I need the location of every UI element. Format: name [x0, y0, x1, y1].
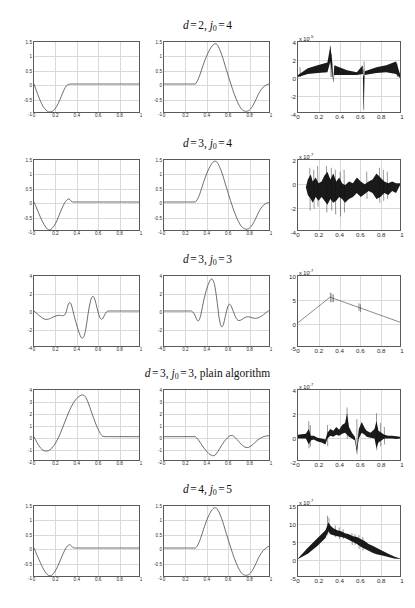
- ytick: 1.5: [26, 40, 32, 45]
- ytick: 4: [159, 274, 162, 279]
- ytick: 1: [159, 424, 162, 429]
- row-3-panels: 4 2 0 -2 -4 0 0.2 0.4 0.6 0.8 1: [0, 275, 415, 361]
- wavelet-function-curve: [164, 390, 269, 460]
- xtick: 0.6: [225, 347, 231, 352]
- axes-r4c3: x 10-7 4 2 0 -2 0 0.2 0.4 0.6 0.8 1: [297, 389, 401, 461]
- xtick: 0.2: [52, 461, 58, 466]
- ytick: 1: [159, 54, 162, 59]
- panel-r1c1: 1.5 1 0.5 0 -0.5 -1 0 0.2 0.4 0.6 0.8 1: [33, 41, 140, 113]
- axes-r5c2: 1.5 1 0.5 0 -0.5 -1 0 0.2 0.4 0.6 0.8 1: [163, 505, 270, 577]
- xtick: 0.6: [356, 113, 365, 120]
- panel-r5c1: 1.5 1 0.5 0 -0.5 -1 0 0.2 0.4 0.6 0.8 1: [33, 505, 140, 577]
- ytick: 1: [159, 518, 162, 523]
- axes-r1c3: x 10-5 4 2 0 -2 -4 0 0.2 0.4 0.6 0.8 1: [297, 41, 401, 113]
- ytick: 0: [293, 321, 296, 328]
- xtick: 1: [270, 347, 273, 352]
- panel-r4c3: x 10-7 4 2 0 -2 0 0.2 0.4 0.6 0.8 1: [297, 389, 401, 461]
- xtick: 0.4: [204, 231, 210, 236]
- xtick: 1: [140, 461, 143, 466]
- ytick: -1: [28, 448, 32, 453]
- xtick: 0.4: [335, 347, 344, 354]
- ytick: 1.5: [26, 158, 32, 163]
- xtick: 0.8: [246, 113, 252, 118]
- xtick: 1: [140, 113, 143, 118]
- figure-row-1: d=2, j0=4 1.5 1 0.5 0 -0.5 -1 0 0.2 0.4: [0, 18, 415, 127]
- xtick: 0: [296, 461, 299, 468]
- xtick: 0.6: [95, 113, 101, 118]
- xtick: 0.8: [377, 577, 386, 584]
- xtick: 0.8: [116, 231, 122, 236]
- xtick: 0.2: [182, 461, 188, 466]
- wavelet-function-curve: [164, 42, 269, 112]
- ytick: 0: [293, 557, 296, 564]
- error-curve: [298, 42, 400, 112]
- ytick: 2: [159, 292, 162, 297]
- xtick: 0: [163, 461, 166, 466]
- xtick: 0.2: [182, 231, 188, 236]
- xtick: 0.2: [182, 113, 188, 118]
- ytick: 0: [159, 201, 162, 206]
- xtick: 0.2: [52, 231, 58, 236]
- ytick: 2: [293, 57, 296, 64]
- ytick: -1: [28, 230, 32, 235]
- axes-r1c2: 1.5 1 0.5 0 -0.5 -1 0 0.2 0.4 0.6 0.8 1: [163, 41, 270, 113]
- xtick: 0: [33, 231, 36, 236]
- ytick: 4: [29, 388, 32, 393]
- xtick: 1: [400, 347, 403, 354]
- axes-r2c1: 1.5 1 0.5 0 -0.5 -1 0 0.2 0.4 0.6 0.8 1: [33, 159, 140, 231]
- panel-r4c2: 4 3 2 1 0 -1 -2 0 0.2 0.4 0.6 0.8 1: [163, 389, 270, 461]
- panel-r1c3: x 10-5 4 2 0 -2 -4 0 0.2 0.4 0.6 0.8 1: [297, 41, 401, 113]
- xtick: 0.4: [335, 577, 344, 584]
- xtick: 1: [140, 347, 143, 352]
- ytick: -1: [158, 112, 162, 117]
- ytick: -1: [28, 576, 32, 581]
- row-3-title: d=3, j0=3: [0, 252, 415, 267]
- figure-row-2: d=3, j0=4 1.5 1 0.5 0 -0.5 -1 0 0.2 0.4: [0, 136, 415, 245]
- axis-exponent: x 10-7: [299, 152, 313, 160]
- ytick: 0: [293, 75, 296, 82]
- xtick: 0.2: [314, 347, 323, 354]
- ytick: 1.5: [156, 504, 162, 509]
- ytick: 0.5: [156, 68, 162, 73]
- wavelet-function-curve: [164, 160, 269, 230]
- xtick: 0.8: [116, 461, 122, 466]
- ytick: 0.5: [156, 186, 162, 191]
- scaling-function-curve: [34, 160, 139, 230]
- ytick: -4: [28, 346, 32, 351]
- xtick: 0.4: [74, 113, 80, 118]
- xtick: 0.2: [314, 577, 323, 584]
- axes-r4c1: 4 3 2 1 0 -1 -2 0 0.2 0.4 0.6 0.8 1: [33, 389, 140, 461]
- xtick: 0.8: [246, 347, 252, 352]
- ytick: -5: [290, 575, 296, 582]
- ytick: -1: [158, 230, 162, 235]
- xtick: 0.2: [182, 577, 188, 582]
- ytick: 0.5: [26, 68, 32, 73]
- panel-r2c3: x 10-7 2 0 -2 -4 0 0.2 0.4 0.6 0.8 1: [297, 159, 401, 231]
- ytick: -0.5: [24, 97, 32, 102]
- xtick: 0.2: [52, 577, 58, 582]
- xtick: 0.6: [95, 231, 101, 236]
- xtick: 0.2: [182, 347, 188, 352]
- axes-r2c3: x 10-7 2 0 -2 -4 0 0.2 0.4 0.6 0.8 1: [297, 159, 401, 231]
- figure-row-5: d=4, j0=5 1.5 1 0.5 0 -0.5 -1 0 0.2 0.4: [0, 482, 415, 591]
- scaling-function-curve: [34, 42, 139, 112]
- xtick: 0: [296, 347, 299, 354]
- scaling-function-curve: [34, 276, 139, 346]
- xtick: 0.4: [204, 461, 210, 466]
- row-4-panels: 4 3 2 1 0 -1 -2 0 0.2 0.4 0.6 0.8 1: [0, 389, 415, 475]
- ytick: 4: [293, 39, 296, 46]
- axes-r3c2: 4 2 0 -2 -4 0 0.2 0.4 0.6 0.8 1: [163, 275, 270, 347]
- ytick: -0.5: [154, 215, 162, 220]
- wavelet-function-curve: [164, 506, 269, 576]
- xtick: 0.8: [246, 231, 252, 236]
- axes-r1c1: 1.5 1 0.5 0 -0.5 -1 0 0.2 0.4 0.6 0.8 1: [33, 41, 140, 113]
- axes-r5c3: x 10-7 15 10 5 0 -5 0 0.2 0.4 0.6 0.8 1: [297, 505, 401, 577]
- xtick: 0.6: [95, 577, 101, 582]
- xtick: 0: [296, 577, 299, 584]
- ytick: 0.5: [26, 532, 32, 537]
- xtick: 1: [140, 231, 143, 236]
- row-2-panels: 1.5 1 0.5 0 -0.5 -1 0 0.2 0.4 0.6 0.8 1: [0, 159, 415, 245]
- xtick: 0: [163, 347, 166, 352]
- xtick: 0.4: [204, 577, 210, 582]
- error-curve: [298, 390, 400, 460]
